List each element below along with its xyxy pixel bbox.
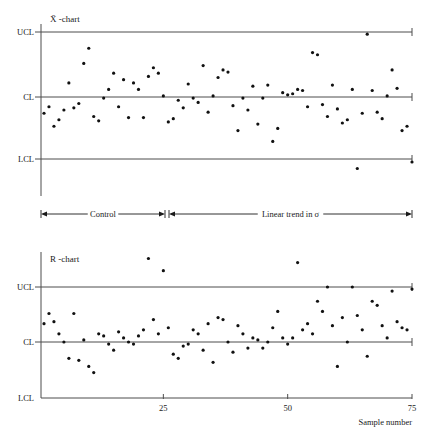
xbar-data-point [356, 167, 359, 170]
r-data-point [216, 316, 219, 319]
xbar-data-point [216, 76, 219, 79]
xbar-data-point [221, 68, 224, 71]
r-data-point [127, 340, 130, 343]
r-data-point [276, 310, 279, 313]
xbar-data-point [147, 75, 150, 78]
phase-segment-trend-label: Linear trend in σ [262, 209, 320, 219]
xbar-data-point [281, 91, 284, 94]
phase-segment-control-arrow-left [41, 211, 47, 216]
xbar-data-point [351, 88, 354, 91]
r-data-point [251, 336, 254, 339]
xbar-data-point [405, 125, 408, 128]
xbar-data-point [72, 106, 75, 109]
r-data-point [321, 310, 324, 313]
xbar-data-point [57, 118, 60, 121]
r-data-point [87, 365, 90, 368]
xbar-data-point [132, 81, 135, 84]
xbar-data-point [336, 107, 339, 110]
r-data-point [286, 342, 289, 345]
r-data-point [306, 322, 309, 325]
xbar-data-point [331, 83, 334, 86]
r-data-point [351, 285, 354, 288]
r-data-point [77, 359, 80, 362]
xbar-data-point [241, 96, 244, 99]
xbar-data-point [386, 94, 389, 97]
xbar-data-point [266, 83, 269, 86]
xbar-data-point [410, 160, 413, 163]
r-data-point [202, 349, 205, 352]
r-data-point [256, 338, 259, 341]
xbar-cl-label: CL [23, 92, 34, 102]
r-data-point [326, 285, 329, 288]
r-data-point [132, 342, 135, 345]
xbar-data-point [256, 122, 259, 125]
xbar-data-point [211, 94, 214, 97]
xbar-ucl-label: UCL [17, 27, 34, 37]
xbar-data-point [127, 116, 130, 119]
x-axis-tick-label: 50 [283, 403, 292, 413]
r-data-point [376, 304, 379, 307]
xbar-data-point [291, 92, 294, 95]
r-data-point [47, 312, 50, 315]
r-data-point [197, 332, 200, 335]
xbar-data-point [326, 115, 329, 118]
xbar-chart-title: X̄ -chart [50, 14, 80, 24]
xbar-data-point [102, 96, 105, 99]
xbar-data-point [366, 33, 369, 36]
r-data-point [57, 332, 60, 335]
x-axis-tick-label: 25 [159, 403, 168, 413]
r-data-points [42, 257, 413, 374]
r-data-point [410, 287, 413, 290]
r-lcl-label: LCL [18, 393, 34, 403]
r-data-point [301, 328, 304, 331]
xbar-data-point [152, 66, 155, 69]
xbar-chart: UCLCLLCLX̄ -chart [17, 14, 414, 196]
r-data-point [261, 347, 264, 350]
xbar-data-point [117, 105, 120, 108]
xbar-data-points [42, 33, 413, 171]
r-data-point [271, 326, 274, 329]
phase-segment-trend: Linear trend in σ [169, 209, 412, 219]
xbar-data-point [42, 112, 45, 115]
xbar-data-point [276, 127, 279, 130]
r-data-point [102, 334, 105, 337]
phase-segment-control-label: Control [90, 209, 117, 219]
xbar-lcl-label: LCL [18, 154, 34, 164]
r-data-point [122, 336, 125, 339]
r-data-point [371, 300, 374, 303]
xbar-data-point [311, 51, 314, 54]
r-data-point [177, 357, 180, 360]
r-data-point [341, 316, 344, 319]
r-data-point [162, 269, 165, 272]
xbar-data-point [107, 88, 110, 91]
xbar-data-point [376, 111, 379, 114]
phase-segment-control: Control [41, 209, 165, 219]
r-ucl-label: UCL [17, 282, 34, 292]
r-data-point [221, 318, 224, 321]
r-data-point [182, 344, 185, 347]
spc-figure: UCLCLLCLX̄ -chartControlLinear trend in … [0, 0, 433, 431]
xbar-data-point [226, 70, 229, 73]
xbar-data-point [122, 78, 125, 81]
r-data-point [356, 314, 359, 317]
phase-segment-trend-arrow-right [406, 211, 412, 216]
xbar-data-point [157, 72, 160, 75]
r-chart: UCLCLLCLR -chart [17, 252, 414, 403]
xbar-data-point [306, 105, 309, 108]
r-data-point [361, 328, 364, 331]
xbar-data-point [137, 88, 140, 91]
r-data-point [316, 300, 319, 303]
r-data-point [157, 332, 160, 335]
xbar-data-point [271, 140, 274, 143]
xbar-data-point [177, 99, 180, 102]
r-data-point [107, 342, 110, 345]
r-data-point [172, 353, 175, 356]
xbar-data-point [67, 81, 70, 84]
xbar-data-point [112, 72, 115, 75]
r-data-point [236, 324, 239, 327]
xbar-data-point [236, 129, 239, 132]
r-data-point [366, 355, 369, 358]
xbar-data-point [341, 121, 344, 124]
xbar-data-point [197, 101, 200, 104]
xbar-data-point [296, 88, 299, 91]
